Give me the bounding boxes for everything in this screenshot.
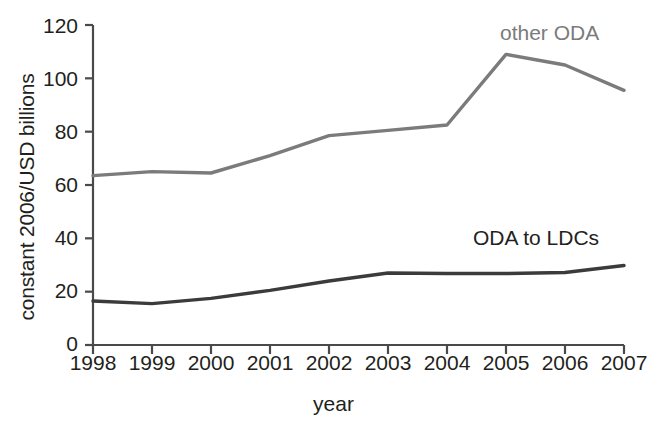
series-line-oda-to-ldcs — [93, 266, 624, 304]
y-axis-ticks — [85, 25, 93, 345]
series-line-other-oda — [93, 54, 624, 175]
axis-lines — [93, 25, 624, 345]
x-axis-ticks — [93, 345, 624, 354]
plot-area — [0, 0, 667, 430]
line-chart: constant 2006/USD billions 120 100 80 60… — [0, 0, 667, 430]
